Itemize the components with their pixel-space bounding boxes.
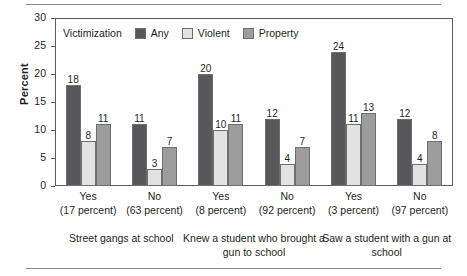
bar-value-label: 12 [267,109,278,119]
bar[interactable]: 3 [147,169,162,186]
x-axis-category-label: Knew a student who brought a gun to scho… [179,231,329,259]
bar[interactable]: 12 [265,119,280,186]
bar-value-label: 11 [231,114,241,124]
bar-value-label: 13 [363,103,374,113]
y-axis-tick-label: 15 [34,95,46,107]
x-axis-category-label: Street gangs at school [46,231,196,245]
top-divider-rule [26,4,441,5]
bar-value-label: 11 [134,114,144,124]
x-axis-tick-labels: Yes(17 percent)No(63 percent)Yes(8 perce… [55,189,453,219]
x-axis-category-label: Saw a student with a gun at school [312,231,462,259]
bar-value-label: 12 [399,109,410,119]
y-axis-tick-label: 30 [34,11,46,23]
bar[interactable]: 11 [346,124,361,186]
bar-value-label: 11 [348,114,358,124]
bottom-divider-rule [26,268,441,269]
figure: Percent 051015202530 Victimization AnyVi… [0,0,467,276]
bars-layer: 18811113720101112472411131248 [55,18,453,186]
bar-value-label: 7 [167,137,173,147]
bar[interactable]: 11 [228,124,243,186]
bar[interactable]: 11 [96,124,111,186]
bar[interactable]: 7 [162,147,177,186]
bar-value-label: 10 [215,120,226,130]
bar-value-label: 3 [152,159,158,169]
bar[interactable]: 10 [213,130,228,186]
bar-value-label: 24 [333,42,344,52]
x-axis-tick-percent: (97 percent) [360,203,467,217]
bar[interactable]: 18 [66,85,81,186]
bar-value-label: 8 [85,131,91,141]
y-axis-tick-label: 10 [34,123,46,135]
y-axis-title: Percent [18,34,30,134]
bar[interactable]: 8 [427,141,442,186]
y-axis-tick-label: 25 [34,39,46,51]
x-axis-tick-label: No(97 percent) [360,189,467,217]
bar[interactable]: 20 [198,74,213,186]
bar[interactable]: 7 [295,147,310,186]
bar-value-label: 4 [417,154,423,164]
bar-value-label: 18 [68,75,79,85]
bar[interactable]: 8 [81,141,96,186]
bar[interactable]: 12 [397,119,412,186]
bar-value-label: 8 [432,131,438,141]
y-axis-tick-label: 20 [34,67,46,79]
bar[interactable]: 4 [280,164,295,186]
bar-value-label: 11 [98,114,108,124]
bar[interactable]: 4 [412,164,427,186]
y-axis-tick-mark [51,186,55,187]
y-axis-tick-label: 5 [40,151,46,163]
x-axis-tick-name: No [360,189,467,203]
bar-value-label: 7 [299,137,305,147]
x-axis-group-labels: Street gangs at schoolKnew a student who… [55,231,453,263]
bar-value-label: 4 [284,154,290,164]
bar[interactable]: 11 [132,124,147,186]
bar[interactable]: 13 [361,113,376,186]
bar-value-label: 20 [200,64,211,74]
bar[interactable]: 24 [331,52,346,186]
